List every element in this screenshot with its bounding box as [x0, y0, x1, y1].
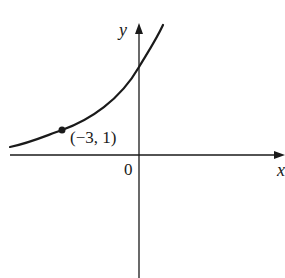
- graph-canvas: (−3, 1) 0 x y: [0, 0, 285, 278]
- origin-label: 0: [124, 160, 133, 179]
- point-marker: [59, 127, 66, 134]
- y-axis-label: y: [117, 20, 127, 40]
- x-axis-arrow-icon: [274, 151, 285, 159]
- y-axis-arrow-icon: [135, 23, 143, 34]
- point-label: (−3, 1): [70, 128, 116, 147]
- x-axis-label: x: [276, 160, 285, 180]
